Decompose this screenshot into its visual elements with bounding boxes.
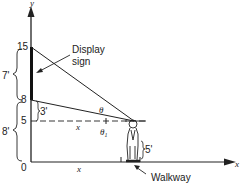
y-tick-8: 8 <box>21 94 27 105</box>
display-sign-diagram: y 15 8 5 0 x Display sign 7' 8' 3' 5' x … <box>0 0 243 187</box>
ground-distance-label: x <box>76 164 81 174</box>
display-sign-pointer-arrow-icon <box>36 68 43 73</box>
dashed-distance-label: x <box>75 122 80 132</box>
brace-7ft <box>13 49 22 100</box>
gap-above-eye-label: 3' <box>40 106 48 117</box>
theta-label: θ <box>99 105 104 115</box>
theta1-label: θ1 <box>100 127 107 138</box>
sign-bottom-height-label: 8' <box>2 126 10 137</box>
x-axis-label: x <box>234 159 239 169</box>
y-tick-5: 5 <box>21 115 27 126</box>
eye-height-label: 5' <box>145 144 153 155</box>
y-tick-15: 15 <box>17 41 29 52</box>
brace-8ft <box>13 102 22 161</box>
display-sign-label-line1: Display <box>72 44 105 55</box>
origin-label: 0 <box>21 162 27 173</box>
sign-height-label: 7' <box>2 70 10 81</box>
display-sign-pointer <box>38 55 70 72</box>
display-sign-label-line2: sign <box>72 56 90 67</box>
walkway-label: Walkway <box>151 172 191 183</box>
y-axis-label: y <box>29 0 34 8</box>
